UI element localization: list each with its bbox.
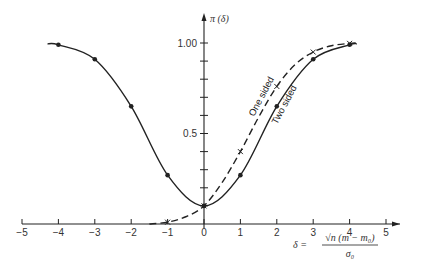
- data-point-dot-icon: [93, 57, 98, 62]
- x-tick-label: 1: [238, 227, 244, 238]
- data-point-dot-icon: [129, 104, 134, 109]
- x-tick-label: −1: [162, 227, 174, 238]
- x-tick-label: 2: [274, 227, 280, 238]
- x-tick-label: −3: [89, 227, 101, 238]
- x-tick-label: −4: [53, 227, 65, 238]
- y-axis-title: π (δ): [210, 13, 229, 25]
- x-axis-title-lhs: δ =: [293, 239, 307, 250]
- data-point-cross-icon: [274, 84, 279, 89]
- y-tick-label: 0.5: [183, 128, 197, 139]
- x-tick-label: 5: [383, 227, 389, 238]
- data-point-dot-icon: [165, 173, 170, 178]
- data-point-dot-icon: [56, 43, 61, 48]
- series-line: [47, 43, 356, 205]
- y-axis-arrow-icon: [202, 13, 207, 21]
- x-tick-label: −5: [16, 227, 28, 238]
- series-two-sided: [47, 43, 356, 209]
- curve-label-two-sided: Two sided: [269, 83, 299, 126]
- x-tick-label: 3: [310, 227, 316, 238]
- data-point-dot-icon: [238, 173, 243, 178]
- series-layer: [47, 41, 356, 225]
- x-tick-label: −2: [125, 227, 137, 238]
- axes: [22, 13, 400, 228]
- power-function-chart: −5−4−3−2−10123450.51.00π (δ)δ =√n (m − m…: [0, 0, 427, 269]
- x-tick-label: 0: [201, 227, 207, 238]
- y-tick-label: 1.00: [178, 38, 198, 49]
- series-one-sided: [149, 41, 356, 225]
- x-axis-title-numerator: √n (m − m₀): [325, 232, 375, 244]
- x-axis-title-denominator: σ₀: [346, 248, 355, 259]
- data-point-cross-icon: [238, 149, 243, 154]
- data-point-dot-icon: [311, 57, 316, 62]
- series-line: [149, 43, 356, 224]
- x-axis-arrow-icon: [392, 222, 400, 227]
- data-point-cross-icon: [311, 50, 316, 55]
